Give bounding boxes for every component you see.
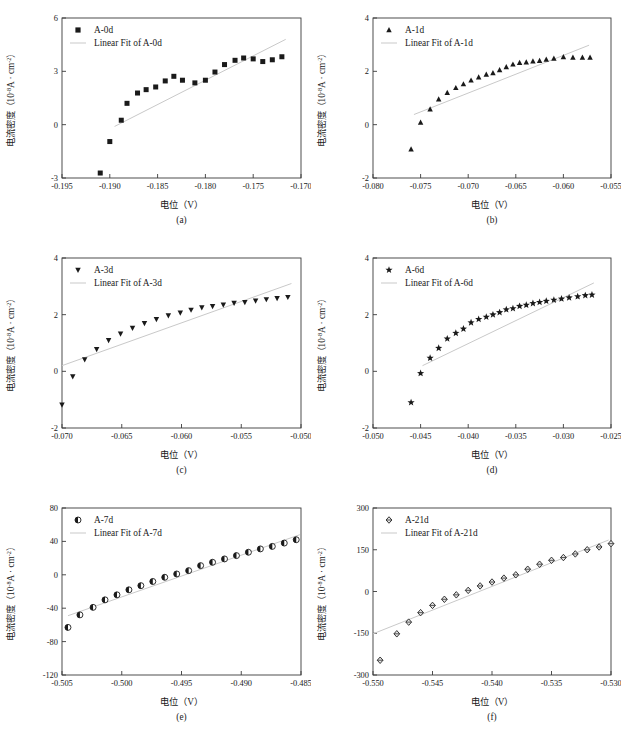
y-tick-label: 300 [356, 504, 369, 513]
legend-fit-label: Linear Fit of A-21d [405, 528, 478, 538]
x-tick-label: -0.030 [553, 432, 575, 441]
y-axis-title: 电流密度（10-8A · cm-2） [316, 49, 327, 148]
y-tick-label: 4 [365, 14, 370, 23]
data-point-marker [281, 540, 287, 546]
x-tick-label: -0.535 [541, 679, 563, 688]
y-tick-label: 0 [54, 571, 58, 580]
y-tick-label: -40 [47, 604, 58, 613]
subplot-caption: (d) [487, 465, 498, 476]
legend-fit-label: Linear Fit of A-7d [94, 528, 162, 538]
x-tick-label: -0.025 [600, 432, 621, 441]
y-tick-label: -3 [51, 174, 58, 183]
data-point-marker [260, 59, 265, 64]
data-point-marker [192, 80, 197, 85]
x-tick-label: -0.035 [505, 432, 527, 441]
x-tick-label: -0.070 [51, 432, 73, 441]
x-tick-label: -0.550 [362, 679, 384, 688]
chart-e: -0.505-0.500-0.495-0.490-0.485-120-80-40… [0, 490, 311, 737]
y-tick-label: -150 [354, 629, 369, 638]
subplot-a: -0.195-0.190-0.185-0.180-0.175-0.170-303… [0, 0, 311, 240]
data-point-marker [279, 54, 284, 59]
legend-series-label: A-0d [94, 25, 113, 35]
legend-series-label: A-3d [94, 265, 113, 275]
y-tick-label: 0 [365, 588, 369, 597]
x-tick-label: -0.060 [171, 432, 193, 441]
x-tick-label: -0.080 [362, 182, 384, 191]
x-tick-label: -0.070 [457, 182, 479, 191]
legend-fit-label: Linear Fit of A-3d [94, 278, 162, 288]
data-point-marker [102, 597, 108, 603]
y-tick-label: 4 [54, 254, 59, 263]
x-tick-label: -0.530 [600, 679, 621, 688]
x-tick-label: -0.055 [600, 182, 621, 191]
x-axis-title: 电位（V） [471, 696, 514, 707]
data-point-marker [77, 612, 83, 618]
chart-a: -0.195-0.190-0.185-0.180-0.175-0.170-303… [0, 0, 311, 240]
chart-f: -0.550-0.545-0.540-0.535-0.530-300-15001… [311, 490, 621, 737]
data-point-marker [269, 543, 275, 549]
data-point-marker [212, 70, 217, 75]
data-point-marker [119, 118, 124, 123]
data-point-marker [171, 74, 176, 79]
subplot-e: -0.505-0.500-0.495-0.490-0.485-120-80-40… [0, 490, 311, 737]
data-point-marker [65, 624, 71, 630]
y-tick-label: -300 [354, 671, 369, 680]
y-tick-label: -2 [362, 174, 369, 183]
data-point-marker [135, 91, 140, 96]
x-axis-title: 电位（V） [471, 449, 514, 460]
legend-series-label: A-21d [405, 515, 429, 525]
x-axis-title: 电位（V） [160, 449, 203, 460]
data-point-marker [198, 563, 204, 569]
y-tick-label: 0 [365, 367, 369, 376]
subplot-caption: (e) [176, 712, 186, 723]
x-tick-label: -0.495 [171, 679, 193, 688]
figure-grid: -0.195-0.190-0.185-0.180-0.175-0.170-303… [0, 0, 621, 737]
x-tick-label: -0.175 [242, 182, 264, 191]
x-axis-title: 电位（V） [471, 199, 514, 210]
subplot-caption: (b) [487, 215, 498, 226]
data-point-marker [245, 549, 251, 555]
x-tick-label: -0.055 [230, 432, 252, 441]
subplot-f: -0.550-0.545-0.540-0.535-0.530-300-15001… [311, 490, 621, 737]
x-tick-label: -0.545 [422, 679, 444, 688]
chart-c: -0.070-0.065-0.060-0.055-0.050-2024A-3dL… [0, 240, 311, 490]
x-tick-label: -0.180 [195, 182, 217, 191]
data-point-marker [150, 578, 156, 584]
x-axis-title: 电位（V） [160, 199, 203, 210]
x-tick-label: -0.170 [290, 182, 311, 191]
data-point-marker [222, 62, 227, 67]
x-tick-label: -0.195 [51, 182, 73, 191]
data-point-marker [90, 604, 96, 610]
data-point-marker [180, 78, 185, 83]
data-point-marker [222, 556, 228, 562]
data-point-marker [233, 58, 238, 63]
data-point-marker [203, 78, 208, 83]
data-point-marker [241, 56, 246, 61]
y-tick-label: 4 [365, 254, 370, 263]
data-point-marker [293, 537, 299, 543]
x-tick-label: -0.075 [410, 182, 432, 191]
legend-series-label: A-7d [94, 515, 113, 525]
y-tick-label: 0 [365, 121, 369, 130]
x-axis-title: 电位（V） [160, 696, 203, 707]
y-tick-label: 80 [50, 504, 58, 513]
data-point-marker [75, 27, 80, 32]
legend-series-label: A-1d [405, 25, 424, 35]
data-point-marker [107, 139, 112, 144]
legend-fit-label: Linear Fit of A-0d [94, 38, 162, 48]
data-point-marker [174, 571, 180, 577]
subplot-d: -0.050-0.045-0.040-0.035-0.030-0.025-202… [311, 240, 621, 490]
x-tick-label: -0.485 [290, 679, 311, 688]
x-tick-label: -0.505 [51, 679, 73, 688]
x-tick-label: -0.190 [99, 182, 121, 191]
x-tick-label: -0.050 [290, 432, 311, 441]
y-tick-label: -2 [51, 424, 58, 433]
x-tick-label: -0.185 [147, 182, 169, 191]
y-tick-label: 40 [50, 537, 58, 546]
y-axis-title: 电流密度（10-8A · cm-2） [316, 542, 327, 641]
data-point-marker [233, 553, 239, 559]
y-tick-label: -80 [47, 638, 58, 647]
x-tick-label: -0.500 [111, 679, 133, 688]
y-axis-title: 电流密度（10-8A · cm-2） [5, 294, 16, 393]
y-tick-label: -120 [43, 671, 58, 680]
